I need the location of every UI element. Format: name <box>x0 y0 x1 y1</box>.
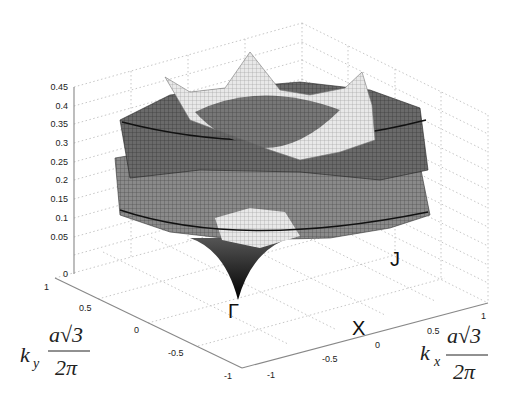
svg-text:2π: 2π <box>55 355 78 380</box>
x-point-label: X <box>352 317 365 339</box>
svg-text:1: 1 <box>481 311 486 321</box>
gamma-label: Γ <box>228 300 239 322</box>
svg-text:0.45: 0.45 <box>50 82 68 92</box>
svg-text:0: 0 <box>134 325 139 335</box>
svg-text:0.05: 0.05 <box>50 232 68 242</box>
svg-text:0.25: 0.25 <box>50 157 68 167</box>
svg-text:-1: -1 <box>267 370 275 380</box>
surface-bands <box>115 52 430 300</box>
z-axis-ticks: 0.45 0.4 0.35 0.3 0.25 0.2 0.15 0.1 0.05… <box>50 82 68 279</box>
svg-text:k: k <box>20 342 31 367</box>
svg-text:a√3: a√3 <box>447 323 481 348</box>
svg-text:-1: -1 <box>224 371 232 381</box>
svg-text:-0.5: -0.5 <box>168 348 184 358</box>
svg-text:0.4: 0.4 <box>55 101 68 111</box>
svg-text:0: 0 <box>63 269 68 279</box>
surface-plot: 0.45 0.4 0.35 0.3 0.25 0.2 0.15 0.1 0.05… <box>0 0 514 402</box>
svg-text:0.5: 0.5 <box>427 326 440 336</box>
band-1-cone <box>190 238 290 300</box>
j-point-label: J <box>390 248 400 270</box>
svg-text:a√3: a√3 <box>49 322 83 347</box>
y-axis-label: k y a√3 2π <box>20 322 90 380</box>
svg-text:2π: 2π <box>453 359 476 384</box>
svg-text:0.3: 0.3 <box>55 138 68 148</box>
svg-text:0: 0 <box>375 340 380 350</box>
svg-text:0.5: 0.5 <box>79 303 92 313</box>
svg-text:-0.5: -0.5 <box>322 354 338 364</box>
svg-text:0.15: 0.15 <box>50 194 68 204</box>
svg-text:0.1: 0.1 <box>55 213 68 223</box>
svg-text:k: k <box>420 340 431 365</box>
svg-text:1: 1 <box>44 282 49 292</box>
svg-text:0.2: 0.2 <box>55 175 68 185</box>
svg-text:0.35: 0.35 <box>50 119 68 129</box>
svg-text:y: y <box>31 356 40 371</box>
svg-text:x: x <box>433 354 441 369</box>
